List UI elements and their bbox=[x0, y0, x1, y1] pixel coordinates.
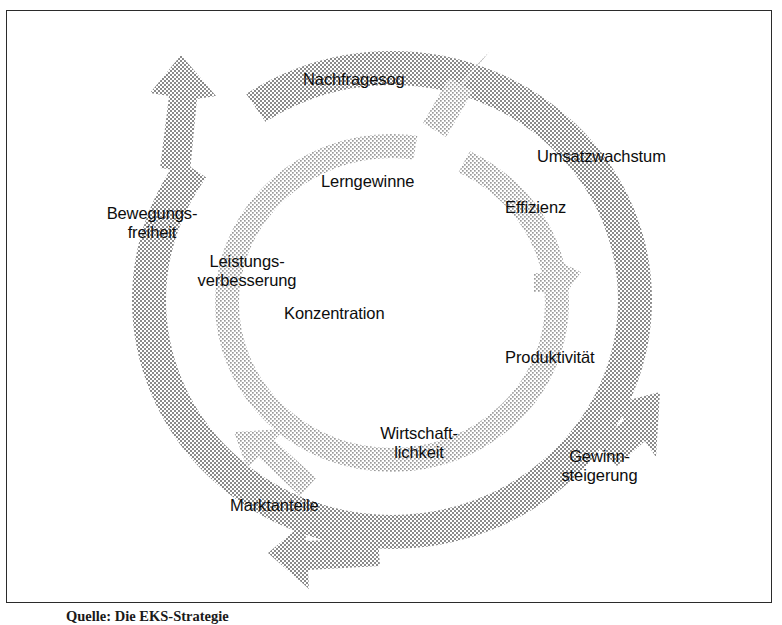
label-gewinnsteigerung: Gewinn- steigerung bbox=[547, 447, 652, 485]
label-wirtschaftlichkeit: Wirtschaft- lichkeit bbox=[364, 424, 474, 462]
label-nachfragesog: Nachfragesog bbox=[303, 70, 405, 89]
label-lerngewinne: Lerngewinne bbox=[321, 172, 414, 191]
label-gewinnsteigerung-line2: steigerung bbox=[561, 466, 637, 484]
label-produktivitaet: Produktivität bbox=[505, 348, 595, 367]
label-marktanteile: Marktanteile bbox=[230, 496, 319, 515]
label-umsatzwachstum: Umsatzwachstum bbox=[537, 147, 666, 166]
label-effizienz: Effizienz bbox=[505, 198, 566, 217]
outer-arrowhead-topleft bbox=[150, 55, 216, 172]
label-bewegungsfreiheit-line2: freiheit bbox=[128, 223, 177, 241]
label-wirtschaftlichkeit-line2: lichkeit bbox=[394, 443, 444, 461]
label-leistungsverbesserung-line2: verbesserung bbox=[198, 271, 297, 289]
label-bewegungsfreiheit: Bewegungs- freiheit bbox=[92, 204, 212, 242]
label-gewinnsteigerung-line1: Gewinn- bbox=[569, 447, 630, 465]
label-leistungsverbesserung: Leistungs- verbesserung bbox=[170, 252, 324, 290]
label-bewegungsfreiheit-line1: Bewegungs- bbox=[107, 204, 198, 222]
label-leistungsverbesserung-line1: Leistungs- bbox=[209, 252, 284, 270]
label-konzentration: Konzentration bbox=[284, 304, 385, 323]
figure-caption: Quelle: Die EKS-Strategie bbox=[66, 608, 726, 625]
label-wirtschaftlichkeit-line1: Wirtschaft- bbox=[380, 424, 458, 442]
